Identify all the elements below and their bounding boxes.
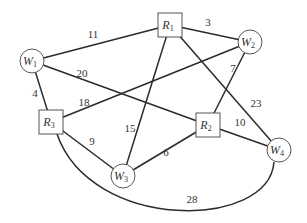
- node-r2: R2: [196, 113, 220, 137]
- node-w3: W3: [111, 164, 135, 188]
- node-w2: W2: [238, 30, 262, 54]
- node-w1: W1: [20, 49, 44, 73]
- edge-weights-layer: 1132074182315910628: [32, 16, 262, 205]
- edge-weight-label: 3: [205, 16, 211, 28]
- edge-weight-label: 23: [251, 97, 263, 109]
- edge-weight-label: 28: [187, 193, 199, 205]
- node-w4: W4: [267, 138, 291, 162]
- edge-weight-label: 6: [163, 146, 169, 158]
- node-r1: R1: [158, 13, 182, 37]
- edge-weight-label: 9: [89, 135, 95, 147]
- edge-weight-label: 11: [88, 28, 99, 40]
- edge-weight-label: 7: [230, 62, 236, 74]
- edge-weight-label: 15: [125, 122, 137, 134]
- edge-weight-label: 10: [235, 116, 247, 128]
- edge-weight-label: 18: [79, 96, 91, 108]
- graph-diagram: 1132074182315910628 R1W1W2R3R2W3W4: [0, 0, 307, 223]
- edge-weight-label: 4: [32, 87, 38, 99]
- edge-weight-label: 20: [77, 67, 89, 79]
- edge-w1-r1: [32, 25, 170, 61]
- node-r3: R3: [39, 110, 63, 134]
